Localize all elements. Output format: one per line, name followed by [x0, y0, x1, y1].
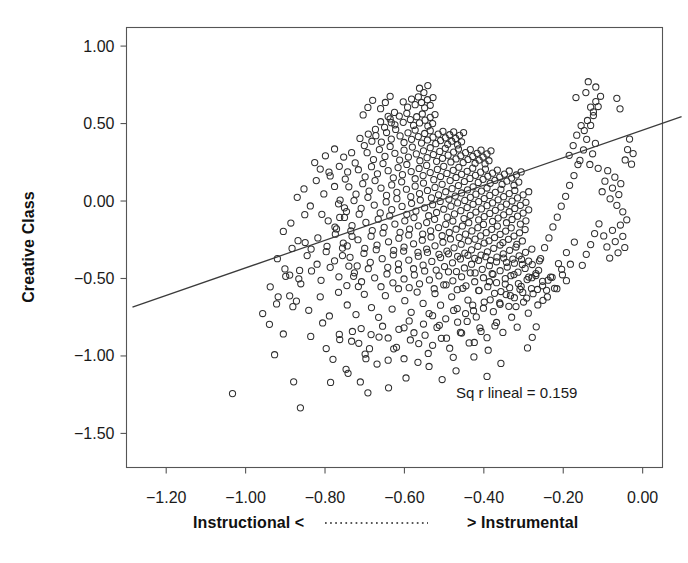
y-tick-label: 1.00 [83, 38, 114, 55]
x-axis-title-right: > Instrumental [467, 514, 578, 531]
x-tick-label: 0.00 [627, 489, 658, 506]
x-axis-title-left: Instructional < [193, 514, 304, 531]
x-tick-label: −1.00 [225, 489, 266, 506]
y-tick-label: −1.00 [74, 347, 115, 364]
x-tick-label: −0.60 [384, 489, 425, 506]
x-tick-label: −0.80 [305, 489, 346, 506]
y-tick-label: 0.00 [83, 193, 114, 210]
x-tick-label: −0.20 [543, 489, 584, 506]
x-tick-label: −1.20 [146, 489, 187, 506]
y-axis-title: Creative Class [20, 191, 37, 303]
x-tick-label: −0.40 [464, 489, 505, 506]
scatter-plot-figure: 1.000.500.00−0.50−1.00−1.50 −1.20−1.00−0… [0, 0, 688, 563]
y-tick-label: −0.50 [74, 270, 115, 287]
fit-statistic-annotation: Sq r lineal = 0.159 [456, 384, 577, 401]
y-tick-label: −1.50 [74, 425, 115, 442]
y-tick-label: 0.50 [83, 115, 114, 132]
chart-canvas: 1.000.500.00−0.50−1.00−1.50 −1.20−1.00−0… [0, 0, 688, 563]
